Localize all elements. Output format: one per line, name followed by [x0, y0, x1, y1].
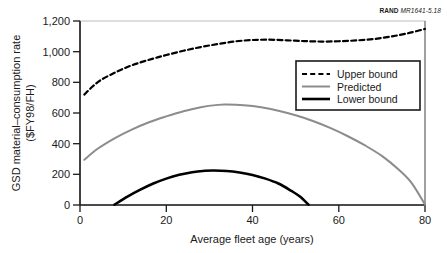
plot-frame	[80, 21, 425, 205]
line-chart: 0 200 400 600 800 1,000 1,200 0 20 40 60…	[0, 0, 447, 253]
y-axis-title-line1: GSD material–consumption rate	[10, 35, 22, 192]
series-line-predicted	[84, 105, 425, 205]
y-tick-label: 0	[64, 199, 70, 211]
chart-figure: RAND MR1641-5.18 0 200 400 600 800 1,000…	[0, 0, 447, 253]
legend-label-predicted: Predicted	[337, 81, 382, 93]
y-tick-label: 800	[52, 76, 70, 88]
legend-label-lower-bound: Lower bound	[337, 93, 398, 105]
x-tick-label: 40	[246, 214, 258, 226]
y-tick-label: 400	[52, 138, 70, 150]
x-tick-label: 20	[160, 214, 172, 226]
x-axis-ticks	[80, 205, 425, 212]
x-tick-label: 0	[77, 214, 83, 226]
y-tick-label: 1,000	[42, 46, 70, 58]
y-axis-ticks	[73, 21, 80, 205]
x-axis-title: Average fleet age (years)	[190, 233, 313, 245]
legend-label-upper-bound: Upper bound	[337, 68, 398, 80]
x-tick-label: 80	[419, 214, 431, 226]
x-tick-label: 60	[333, 214, 345, 226]
x-axis-tick-labels: 0 20 40 60 80	[77, 214, 431, 226]
chart-legend: Upper bound Predicted Lower bound	[296, 61, 420, 110]
y-axis-title-line2: ($FY98/FH)	[24, 84, 36, 141]
y-tick-label: 1,200	[42, 15, 70, 27]
series-line-lower-bound	[115, 170, 309, 204]
y-tick-label: 200	[52, 168, 70, 180]
y-tick-label: 600	[52, 107, 70, 119]
data-series-layer	[84, 29, 425, 205]
y-axis-tick-labels: 0 200 400 600 800 1,000 1,200	[42, 15, 70, 211]
